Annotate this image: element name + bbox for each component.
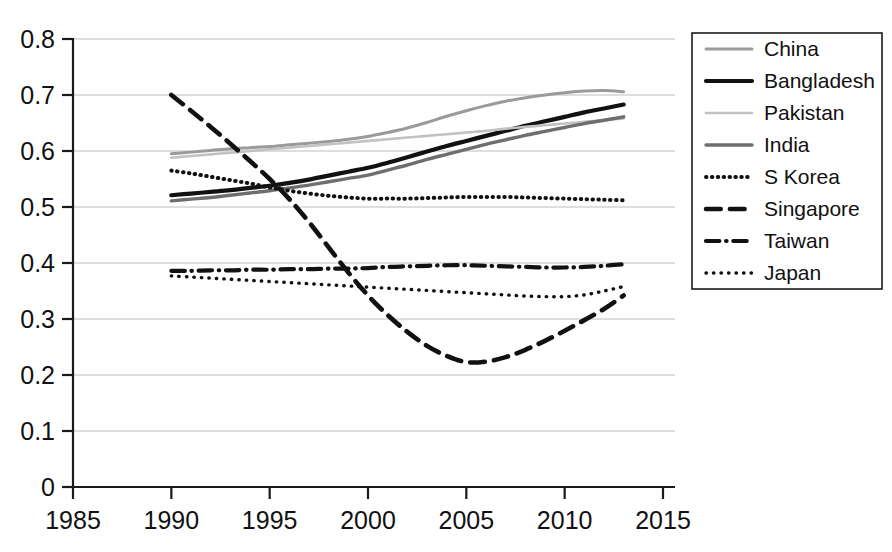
legend-label: India <box>764 133 810 156</box>
series-line-china <box>171 91 623 154</box>
line-chart: 00.10.20.30.40.50.60.70.8 19851990199520… <box>0 0 892 552</box>
x-tick-label: 1990 <box>144 506 200 534</box>
x-tick-label: 2010 <box>537 506 593 534</box>
y-tick-label: 0.3 <box>20 305 55 333</box>
y-axis-ticks: 00.10.20.30.40.50.60.70.8 <box>20 25 73 501</box>
legend-label: Bangladesh <box>764 69 875 92</box>
x-tick-label: 1985 <box>45 506 101 534</box>
x-tick-label: 1995 <box>242 506 298 534</box>
y-tick-label: 0.5 <box>20 193 55 221</box>
y-tick-label: 0.1 <box>20 417 55 445</box>
legend-label: Taiwan <box>764 229 829 252</box>
y-tick-label: 0.4 <box>20 249 55 277</box>
legend-label: China <box>764 37 819 60</box>
legend-label: Japan <box>764 261 821 284</box>
x-tick-label: 2000 <box>340 506 396 534</box>
y-tick-label: 0.7 <box>20 81 55 109</box>
chart-svg: 00.10.20.30.40.50.60.70.8 19851990199520… <box>0 0 892 552</box>
y-tick-label: 0 <box>41 473 55 501</box>
y-tick-label: 0.6 <box>20 137 55 165</box>
series-line-japan <box>171 276 623 297</box>
y-tick-label: 0.2 <box>20 361 55 389</box>
series-line-taiwan <box>171 264 623 271</box>
legend-label: Singapore <box>764 197 860 220</box>
series-group <box>171 91 623 363</box>
y-tick-label: 0.8 <box>20 25 55 53</box>
legend-label: Pakistan <box>764 101 845 124</box>
series-line-singapore <box>171 95 623 363</box>
gridlines-group <box>73 39 675 431</box>
legend-label: S Korea <box>764 165 840 188</box>
x-axis-ticks: 1985199019952000200520102015 <box>45 487 691 534</box>
chart-legend: ChinaBangladeshPakistanIndiaS KoreaSinga… <box>692 33 882 289</box>
x-tick-label: 2015 <box>635 506 691 534</box>
x-tick-label: 2005 <box>439 506 495 534</box>
